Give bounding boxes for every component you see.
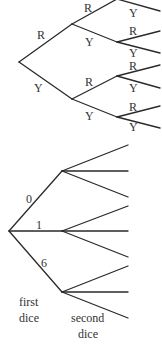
- edge-R-Y: [72, 24, 117, 42]
- edge-0-c: [62, 171, 128, 197]
- caption-first-line2: dice: [19, 311, 39, 325]
- label-first-1: 1: [36, 218, 42, 232]
- edge-6-a: [62, 266, 128, 292]
- caption-second-line1: second: [71, 311, 104, 325]
- label-l3-R3: R: [129, 100, 137, 114]
- edge-RY-Y: [117, 42, 160, 53]
- edge-root-6: [9, 231, 62, 292]
- label-l3-Y1: Y: [129, 6, 138, 20]
- bottom-tree: 0 1 6 first dice second dice: [9, 145, 128, 341]
- tree-diagrams: R Y R Y R Y Y R Y R Y R Y 0 1 6: [0, 0, 162, 351]
- label-l2-R: R: [84, 1, 92, 15]
- label-l2-Y2: Y: [85, 109, 94, 123]
- edge-YR-R: [117, 65, 160, 76]
- edge-YY-Y: [117, 117, 160, 128]
- edge-YR-Y: [117, 76, 160, 88]
- top-tree: R Y R Y R Y Y R Y R Y R Y: [19, 0, 160, 134]
- label-l3-Y3: Y: [129, 81, 138, 95]
- label-l1-Y: Y: [34, 81, 43, 95]
- label-l3-Y4: Y: [129, 120, 138, 134]
- edge-1-c: [62, 231, 128, 257]
- label-l2-R2: R: [85, 75, 93, 89]
- label-l3-R1: R: [129, 24, 137, 38]
- edge-RY-R: [117, 31, 160, 42]
- label-first-0: 0: [26, 192, 32, 206]
- caption-first-line1: first: [19, 295, 39, 309]
- edge-YY-R: [117, 106, 160, 117]
- edge-Y-R: [72, 76, 117, 99]
- label-l3-R2: R: [129, 59, 137, 73]
- edge-RR-Y: [117, 0, 160, 11]
- caption-second-line2: dice: [78, 327, 98, 341]
- edge-Y-Y: [72, 99, 117, 117]
- edge-0-a: [62, 145, 128, 171]
- label-l2-Y: Y: [85, 35, 94, 49]
- edge-root-Y: [19, 62, 72, 99]
- edge-1-a: [62, 206, 128, 231]
- edge-root-R: [19, 24, 72, 62]
- edge-R-R: [72, 0, 117, 24]
- label-first-6: 6: [41, 256, 47, 270]
- label-l1-R: R: [37, 28, 45, 42]
- label-l3-Y2: Y: [129, 46, 138, 60]
